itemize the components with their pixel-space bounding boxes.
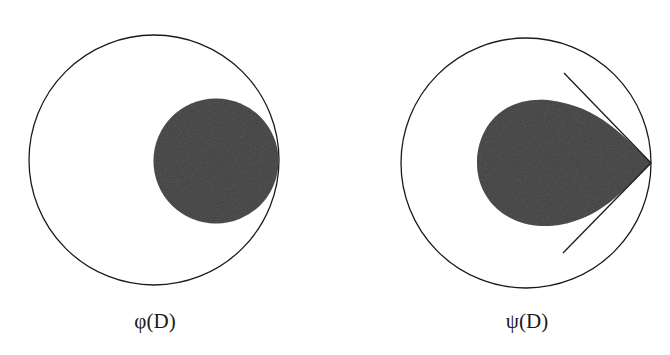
phi-caption: φ(D)	[134, 309, 175, 334]
psi-caption: ψ(D)	[506, 309, 548, 334]
diagram-canvas	[0, 0, 670, 355]
phi-shaded-disc	[154, 99, 279, 224]
psi-figure	[401, 38, 651, 288]
psi-shaded-teardrop	[477, 100, 651, 226]
phi-figure	[29, 35, 279, 285]
